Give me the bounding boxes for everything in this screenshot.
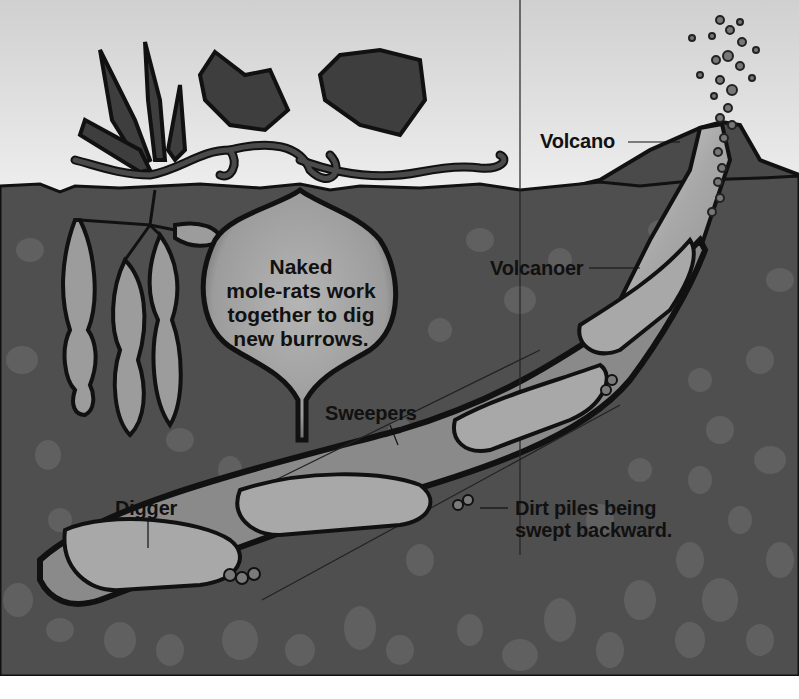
label-volcano: Volcano [540,130,615,152]
label-dirt-piles-line1: Dirt piles being [515,497,656,519]
label-volcanoer: Volcanoer [490,257,583,279]
page-bottom-band [0,676,799,699]
bulb-caption: Naked mole-rats work together to dig new… [226,255,376,351]
label-sweepers: Sweepers [325,402,417,424]
mole-rat-burrow-illustration [0,0,799,699]
label-dirt-piles-line2: swept backward. [515,519,672,541]
caption-line-3: together to dig [226,303,376,327]
caption-line-1: Naked [226,255,376,279]
caption-line-4: new burrows. [226,327,376,351]
caption-line-2: mole-rats work [226,279,376,303]
mole-rat-sweeper-1 [237,474,430,535]
label-digger: Digger [115,497,177,519]
